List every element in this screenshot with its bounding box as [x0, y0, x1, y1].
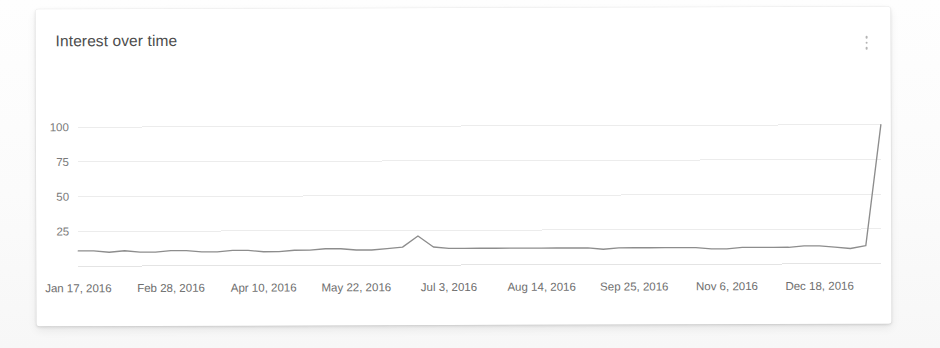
interest-series-line: [78, 125, 881, 253]
chart-x-axis-labels: Jan 17, 2016Feb 28, 2016Apr 10, 2016May …: [45, 280, 854, 295]
interest-over-time-chart: 255075100 Jan 17, 2016Feb 28, 2016Apr 10…: [36, 7, 892, 327]
chart-y-axis-labels: 255075100: [50, 121, 70, 237]
gridline: [78, 159, 881, 162]
x-axis-tick-label: Jul 3, 2016: [421, 281, 477, 293]
interest-over-time-card: Interest over time 255075100 Jan 17, 201…: [36, 7, 892, 327]
x-axis-tick-label: Nov 6, 2016: [696, 280, 758, 292]
y-axis-tick-label: 75: [56, 156, 69, 168]
x-axis-tick-label: Dec 18, 2016: [785, 280, 853, 292]
x-axis-tick-label: Apr 10, 2016: [231, 282, 297, 294]
chart-gridlines: [78, 125, 881, 267]
page-background: Interest over time 255075100 Jan 17, 201…: [0, 0, 940, 348]
x-axis-tick-label: Feb 28, 2016: [137, 282, 205, 294]
x-axis-tick-label: May 22, 2016: [321, 281, 391, 293]
y-axis-tick-label: 100: [50, 121, 69, 133]
gridline: [78, 194, 881, 197]
gridline: [78, 229, 881, 232]
x-axis-tick-label: Sep 25, 2016: [600, 280, 668, 292]
y-axis-tick-label: 50: [56, 191, 69, 203]
axis-baseline: [78, 264, 881, 267]
x-axis-tick-label: Jan 17, 2016: [45, 282, 112, 294]
gridline: [78, 125, 881, 128]
y-axis-tick-label: 25: [56, 225, 69, 237]
x-axis-tick-label: Aug 14, 2016: [507, 281, 575, 293]
chart-svg: 255075100 Jan 17, 2016Feb 28, 2016Apr 10…: [36, 7, 892, 327]
